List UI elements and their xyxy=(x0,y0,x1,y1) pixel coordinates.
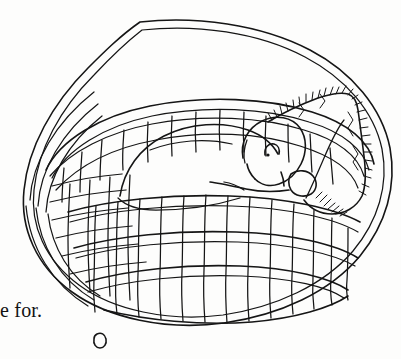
illustration-sleeping-puppy-in-basket xyxy=(0,0,401,359)
puppy-snout xyxy=(281,171,316,196)
puppy-muzzle-line xyxy=(210,182,289,191)
page-caption-text: e for. xyxy=(0,298,42,322)
basket-inner-rim xyxy=(26,92,374,306)
page-marker-circle xyxy=(94,333,106,348)
basket-weave-front xyxy=(68,195,360,323)
blanket-shape xyxy=(268,93,365,214)
scanned-page: e for. xyxy=(0,0,401,359)
